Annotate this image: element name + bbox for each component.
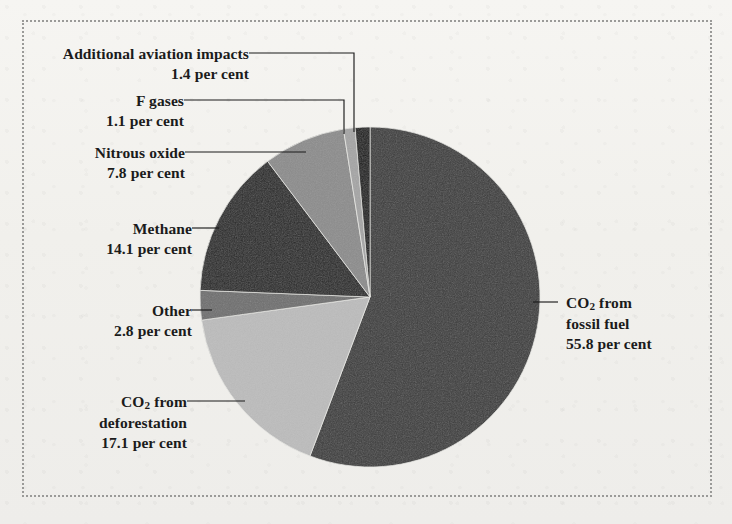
label-f-gases-value: 1.1 per cent: [64, 111, 184, 131]
from-text: from: [150, 393, 187, 410]
co2-text: CO: [566, 294, 589, 311]
label-aviation-title: Additional aviation impacts: [44, 44, 249, 64]
label-aviation-impacts: Additional aviation impacts 1.4 per cent: [44, 44, 249, 84]
from-text: from: [595, 294, 632, 311]
leader-line-aviation: [249, 53, 354, 132]
label-methane: Methane 14.1 per cent: [62, 219, 192, 259]
pie-slice-group: [200, 127, 540, 467]
label-aviation-value: 1.4 per cent: [44, 64, 249, 84]
label-co2-deforestation-line2: deforestation: [47, 413, 187, 433]
label-f-gases: F gases 1.1 per cent: [64, 91, 184, 131]
label-co2-fossil-fuel-line2: fossil fuel: [566, 314, 716, 334]
leader-line-fgases: [184, 100, 344, 134]
label-co2-deforestation-value: 17.1 per cent: [47, 433, 187, 453]
label-other-value: 2.8 per cent: [62, 321, 192, 341]
label-f-gases-title: F gases: [64, 91, 184, 111]
label-other-title: Other: [62, 301, 192, 321]
label-co2-fossil-fuel-value: 55.8 per cent: [566, 334, 716, 354]
label-co2-deforestation-title: CO2 from: [47, 392, 187, 413]
label-nitrous-oxide-value: 7.8 per cent: [45, 163, 185, 183]
label-co2-fossil-fuel-title: CO2 from: [566, 293, 716, 314]
label-methane-value: 14.1 per cent: [62, 239, 192, 259]
label-nitrous-oxide-title: Nitrous oxide: [45, 143, 185, 163]
co2-text: CO: [121, 393, 144, 410]
figure-page: Additional aviation impacts 1.4 per cent…: [0, 0, 732, 524]
label-methane-title: Methane: [62, 219, 192, 239]
label-co2-fossil-fuel: CO2 from fossil fuel 55.8 per cent: [566, 293, 716, 353]
label-other: Other 2.8 per cent: [62, 301, 192, 341]
label-nitrous-oxide: Nitrous oxide 7.8 per cent: [45, 143, 185, 183]
label-co2-deforestation: CO2 from deforestation 17.1 per cent: [47, 392, 187, 452]
